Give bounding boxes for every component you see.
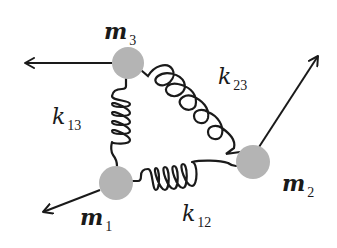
- label-k23-subscript: 23: [233, 78, 247, 93]
- label-m1-symbol: m: [80, 204, 103, 230]
- label-m3-subscript: 3: [129, 33, 136, 48]
- mass-m2: [236, 145, 270, 179]
- mass-m3: [112, 47, 144, 79]
- spring-k12: [133, 161, 236, 190]
- spring-k13: [111, 79, 130, 166]
- label-k12: k12: [182, 203, 211, 225]
- label-m2: m2: [282, 172, 314, 194]
- label-m1-subscript: 1: [105, 219, 112, 234]
- three-mass-spring-diagram: [0, 0, 337, 248]
- label-m3-symbol: m: [104, 18, 127, 44]
- label-k12-subscript: 12: [197, 215, 211, 230]
- label-m1: m1: [80, 206, 112, 228]
- label-m2-symbol: m: [282, 170, 305, 196]
- label-m2-subscript: 2: [307, 185, 314, 200]
- label-m3: m3: [104, 20, 136, 42]
- label-k23: k23: [218, 66, 247, 88]
- m2-arrow: [259, 56, 318, 147]
- mass-m1: [99, 166, 133, 200]
- label-k13: k13: [52, 106, 81, 128]
- label-k23-symbol: k: [218, 64, 231, 89]
- label-k12-symbol: k: [182, 201, 195, 226]
- label-k13-subscript: 13: [67, 118, 81, 133]
- label-k13-symbol: k: [52, 104, 65, 129]
